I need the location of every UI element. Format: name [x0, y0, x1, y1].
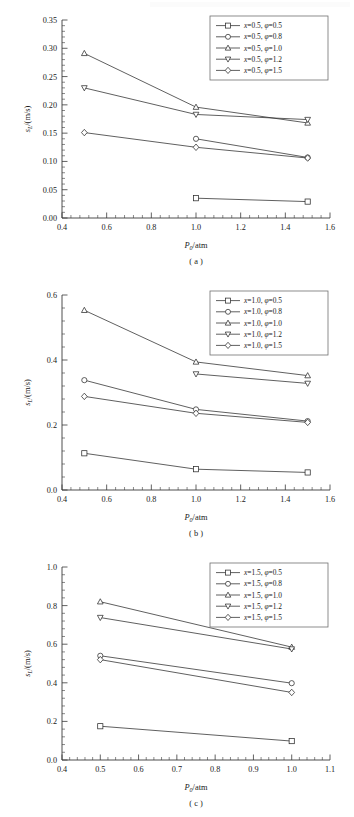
x-tick-label: 0.6: [102, 223, 112, 232]
chart-panel-c: 0.40.50.60.70.80.91.01.10.00.20.40.60.81…: [0, 547, 354, 817]
y-tick-label: 0.0: [47, 486, 57, 495]
y-tick-label: 1.0: [47, 563, 57, 572]
data-point-triangle-up: [193, 104, 199, 109]
y-axis-title: sL/(m/s): [23, 650, 33, 677]
figure-page: 0.40.60.81.01.21.41.60.000.050.100.150.2…: [0, 0, 354, 817]
x-tick-label: 1.6: [325, 223, 335, 232]
series-2: [98, 653, 295, 686]
chart-panel-a: 0.40.60.81.01.21.41.60.000.050.100.150.2…: [0, 0, 354, 275]
x-tick-label: 0.8: [146, 495, 156, 504]
x-axis-title: P0/atm: [183, 241, 207, 251]
legend-label: x=0.5, φ=0.8: [243, 32, 282, 41]
x-tick-label: 1.0: [287, 765, 297, 774]
legend-label: x=1.0, φ=0.5: [243, 296, 282, 305]
data-point-square: [305, 199, 310, 204]
x-tick-label: 0.7: [172, 765, 182, 774]
y-tick-label: 0.20: [43, 101, 57, 110]
y-tick-label: 0.35: [43, 16, 57, 25]
panel-caption: ( a ): [189, 257, 203, 266]
legend: x=0.5, φ=0.5x=0.5, φ=0.8x=0.5, φ=1.0x=0.…: [210, 16, 328, 80]
legend-marker-square: [226, 298, 231, 303]
series-polyline: [100, 656, 291, 683]
y-axis-title: sL/(m/s): [23, 379, 33, 406]
x-tick-label: 1.4: [280, 223, 290, 232]
series-1: [98, 724, 295, 744]
data-point-square: [193, 196, 198, 201]
data-point-triangle-up: [193, 359, 199, 364]
panel-caption: ( b ): [189, 529, 203, 538]
legend-label: x=1.0, φ=0.8: [243, 307, 282, 316]
x-tick-label: 1.2: [236, 223, 246, 232]
series-polyline: [196, 374, 308, 383]
legend-marker-square: [226, 23, 231, 28]
y-tick-label: 0.25: [43, 73, 57, 82]
chart-c: 0.40.50.60.70.80.91.01.10.00.20.40.60.81…: [0, 547, 354, 817]
x-tick-label: 0.4: [57, 223, 67, 232]
data-point-circle: [82, 378, 87, 383]
chart-a: 0.40.60.81.01.21.41.60.000.050.100.150.2…: [0, 0, 354, 275]
legend-label: x=1.5, φ=0.8: [243, 579, 282, 588]
x-tick-label: 0.4: [57, 495, 67, 504]
series-polyline: [100, 726, 291, 741]
legend-marker-circle: [226, 581, 231, 586]
legend-label: x=1.0, φ=1.0: [243, 319, 282, 328]
y-tick-label: 0.0: [47, 756, 57, 765]
data-point-square: [289, 738, 294, 743]
data-point-triangle-down: [305, 117, 311, 122]
data-point-triangle-up: [81, 307, 87, 312]
legend-marker-circle: [226, 309, 231, 314]
data-point-circle: [289, 681, 294, 686]
series-polyline: [100, 660, 291, 693]
legend-label: x=1.5, φ=0.5: [243, 568, 282, 577]
legend-label: x=1.5, φ=1.2: [243, 602, 282, 611]
data-point-circle: [193, 136, 198, 141]
series-polyline: [196, 139, 308, 158]
x-tick-label: 0.9: [248, 765, 258, 774]
legend-label: x=1.0, φ=1.2: [243, 330, 282, 339]
data-point-triangle-down: [305, 381, 311, 386]
legend-marker-square: [226, 570, 231, 575]
y-tick-label: 0.2: [47, 717, 57, 726]
chart-b: 0.40.60.81.01.21.41.60.00.20.40.6P0/atms…: [0, 275, 354, 547]
y-tick-label: 0.10: [43, 157, 57, 166]
y-tick-label: 0.30: [43, 44, 57, 53]
x-tick-label: 1.0: [191, 495, 201, 504]
legend-label: x=0.5, φ=0.5: [243, 21, 282, 30]
chart-panel-b: 0.40.60.81.01.21.41.60.00.20.40.6P0/atms…: [0, 275, 354, 547]
data-point-triangle-up: [81, 50, 87, 55]
data-point-diamond: [289, 689, 295, 696]
data-point-diamond: [81, 393, 87, 400]
data-point-square: [82, 451, 87, 456]
x-tick-label: 1.6: [325, 495, 335, 504]
data-point-triangle-up: [97, 599, 103, 604]
data-point-square: [193, 467, 198, 472]
x-tick-label: 1.1: [325, 765, 335, 774]
legend-label: x=0.5, φ=1.5: [243, 66, 282, 75]
y-tick-label: 0.05: [43, 186, 57, 195]
series-1: [82, 451, 311, 475]
x-tick-label: 1.2: [236, 495, 246, 504]
data-point-diamond: [81, 129, 87, 136]
y-tick-label: 0.6: [47, 291, 57, 300]
series-5: [97, 656, 294, 695]
legend-label: x=0.5, φ=1.0: [243, 44, 282, 53]
y-tick-label: 0.4: [47, 356, 57, 365]
x-axis-title: P0/atm: [183, 513, 207, 523]
panel-caption: ( c ): [189, 799, 203, 808]
x-tick-label: 0.8: [210, 765, 220, 774]
y-tick-label: 0.00: [43, 214, 57, 223]
x-tick-label: 0.8: [146, 223, 156, 232]
x-tick-label: 1.0: [191, 223, 201, 232]
x-tick-label: 0.6: [133, 765, 143, 774]
legend-marker-circle: [226, 34, 231, 39]
y-tick-label: 0.6: [47, 640, 57, 649]
y-axis-title: sL/(m/s): [23, 105, 33, 132]
y-tick-label: 0.8: [47, 602, 57, 611]
data-point-square: [305, 470, 310, 475]
legend-label: x=1.5, φ=1.0: [243, 591, 282, 600]
x-axis-title: P0/atm: [183, 783, 207, 793]
y-tick-label: 0.4: [47, 679, 57, 688]
legend-label: x=1.5, φ=1.5: [243, 613, 282, 622]
data-point-square: [98, 724, 103, 729]
x-tick-label: 0.6: [102, 495, 112, 504]
